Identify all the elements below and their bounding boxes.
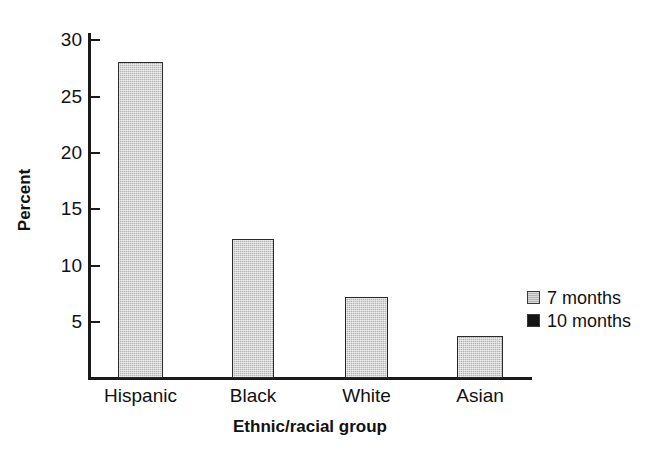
bar-chart-figure: 51015202530 Percent HispanicBlackWhiteAs… [0,0,666,457]
y-axis-tick [91,265,100,267]
y-axis-tick [91,152,100,154]
y-axis-tick-label: 25 [38,87,82,106]
legend-item: 7 months [527,286,662,309]
y-axis-tick-label: 30 [38,30,82,49]
y-axis-tick-labels: 51015202530 [32,0,82,457]
x-axis-tick-label: Hispanic [81,386,201,407]
y-axis-line [88,33,91,380]
legend-item: 10 months [527,309,662,332]
bar-hispanic [118,62,163,379]
bar-white [345,297,388,378]
x-axis-tick-label: White [307,386,427,407]
bar-asian [457,336,503,379]
y-axis-tick-label: 15 [38,199,82,218]
legend-item-label: 10 months [547,312,631,330]
chart-legend: 7 months10 months [527,286,662,332]
legend-item-label: 7 months [547,289,621,307]
x-axis-tick-label: Black [193,386,313,407]
y-axis-tick [91,208,100,210]
y-axis-title: Percent [15,150,35,250]
y-axis-tick-label: 10 [38,256,82,275]
black-swatch [527,314,540,327]
x-axis-title: Ethnic/racial group [88,417,532,437]
gray-swatch [527,291,540,304]
y-axis-tick [91,96,100,98]
x-axis-tick-label: Asian [420,386,540,407]
y-axis-tick [91,321,100,323]
bar-black [232,239,274,379]
y-axis-tick-label: 20 [38,143,82,162]
y-axis-tick-label: 5 [38,312,82,331]
y-axis-tick [91,39,100,41]
